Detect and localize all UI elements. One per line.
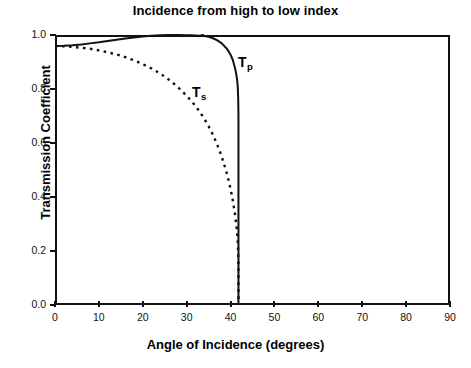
x-tick-label: 30 <box>172 311 202 323</box>
chart-figure: Incidence from high to low index Transmi… <box>0 0 471 368</box>
curve-tp <box>55 35 238 305</box>
x-tick-label: 70 <box>347 311 377 323</box>
chart-title: Incidence from high to low index <box>0 3 471 18</box>
x-tick-label: 60 <box>303 311 333 323</box>
x-tick-label: 20 <box>128 311 158 323</box>
series-label-tp-sub: p <box>247 61 253 72</box>
series-label-tp: Tp <box>238 54 252 70</box>
series-label-tp-text: T <box>238 54 247 70</box>
y-tick-label: 0.0 <box>4 298 46 310</box>
x-tick-label: 10 <box>84 311 114 323</box>
x-tick-label: 0 <box>40 311 70 323</box>
x-axis-label: Angle of Incidence (degrees) <box>0 337 471 352</box>
chart-curves <box>55 35 450 305</box>
x-tick-label: 50 <box>259 311 289 323</box>
series-label-ts-sub: s <box>201 91 206 102</box>
x-tick-label: 80 <box>391 311 421 323</box>
y-tick-label: 1.0 <box>4 28 46 40</box>
y-tick-label: 0.6 <box>4 136 46 148</box>
series-label-ts: Ts <box>192 84 206 100</box>
x-tick-label: 40 <box>216 311 246 323</box>
y-tick-label: 0.2 <box>4 244 46 256</box>
series-label-ts-text: T <box>192 84 201 100</box>
y-tick-label: 0.8 <box>4 82 46 94</box>
y-tick-label: 0.4 <box>4 190 46 202</box>
curve-ts <box>55 46 238 305</box>
x-tick-label: 90 <box>435 311 465 323</box>
